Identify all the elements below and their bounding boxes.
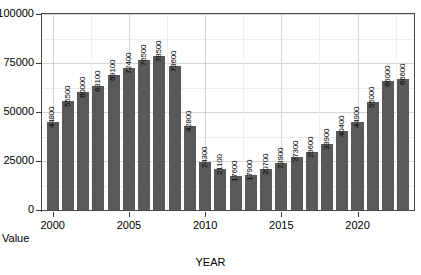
bar-value-label: 29600 — [306, 137, 315, 158]
x-axis-tick-label: 2005 — [109, 219, 149, 231]
x-axis-tick-mark — [129, 212, 130, 217]
y-axis-tick-label: 75000 — [3, 56, 34, 68]
x-axis-title: YEAR — [0, 256, 421, 268]
bar-chart: Value YEAR 0250005000075000100000 200020… — [0, 0, 421, 275]
bar-value-label: 55000 — [367, 87, 376, 108]
bar-value-label: 78500 — [154, 41, 163, 62]
bar-value-label: 44900 — [352, 107, 361, 128]
y-axis-title: Value — [2, 232, 29, 244]
x-axis-tick-mark — [205, 212, 206, 217]
bar — [260, 169, 272, 210]
bar-value-label: 24300 — [200, 147, 209, 168]
bar-value-label: 55500 — [63, 86, 72, 107]
bar — [397, 79, 409, 210]
bar-value-label: 66600 — [398, 64, 407, 85]
bar — [367, 102, 379, 210]
bar — [321, 144, 333, 210]
bar — [169, 66, 181, 210]
bar-value-label: 63100 — [93, 71, 102, 92]
y-axis-tick-label: 0 — [28, 203, 34, 215]
bar — [92, 86, 104, 210]
plot-area: 4480055500600006310069100724007650078500… — [41, 13, 415, 211]
bar — [306, 152, 318, 210]
bar-value-label: 76500 — [139, 45, 148, 66]
y-axis-tick-label: 50000 — [3, 105, 34, 117]
bar-value-label: 17900 — [245, 160, 254, 181]
bar-value-label: 21100 — [215, 154, 224, 175]
x-axis-tick-mark — [358, 212, 359, 217]
bar-value-label: 40400 — [337, 116, 346, 137]
bar — [62, 101, 74, 210]
bar-value-label: 72400 — [124, 53, 133, 74]
bar-value-label: 60000 — [78, 77, 87, 98]
bar — [153, 56, 165, 210]
bar-value-label: 69100 — [108, 59, 117, 80]
bars-layer: 4480055500600006310069100724007650078500… — [42, 14, 414, 210]
bar-value-label: 27300 — [291, 141, 300, 162]
bar — [336, 131, 348, 210]
bar-value-label: 42800 — [184, 111, 193, 132]
bar — [47, 122, 59, 210]
bar — [123, 68, 135, 210]
bar — [108, 75, 120, 210]
y-axis-tick-label: 100000 — [0, 7, 34, 19]
bar — [199, 162, 211, 210]
bar — [382, 81, 394, 210]
bar-value-label: 73600 — [169, 50, 178, 71]
bar-value-label: 66000 — [383, 65, 392, 86]
bar — [138, 60, 150, 210]
bar-value-label: 20700 — [261, 154, 270, 175]
bar-value-label: 23900 — [276, 148, 285, 169]
bar — [275, 163, 287, 210]
bar-value-label: 33900 — [322, 128, 331, 149]
x-axis-tick-label: 2015 — [261, 219, 301, 231]
x-axis-tick-label: 2010 — [185, 219, 225, 231]
bar — [291, 157, 303, 211]
y-axis-tick-label: 25000 — [3, 154, 34, 166]
bar — [351, 122, 363, 210]
x-axis-tick-mark — [53, 212, 54, 217]
bar — [184, 126, 196, 210]
x-axis-tick-label: 2020 — [338, 219, 378, 231]
bar-value-label: 17600 — [230, 160, 239, 181]
x-axis-tick-mark — [281, 212, 282, 217]
bar-value-label: 44800 — [47, 107, 56, 128]
bar — [77, 92, 89, 210]
x-axis-tick-label: 2000 — [33, 219, 73, 231]
